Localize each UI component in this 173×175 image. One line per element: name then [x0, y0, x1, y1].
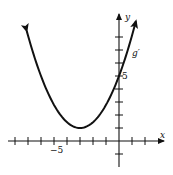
graph-canvas: y x −5 5 g′ — [0, 0, 173, 175]
x-tick-label-minus-5: −5 — [50, 145, 64, 155]
curve-label-g-prime: g′ — [132, 48, 140, 58]
x-axis-label: x — [160, 130, 165, 140]
y-tick-label-5: 5 — [122, 71, 128, 81]
y-axis-label: y — [124, 12, 131, 22]
